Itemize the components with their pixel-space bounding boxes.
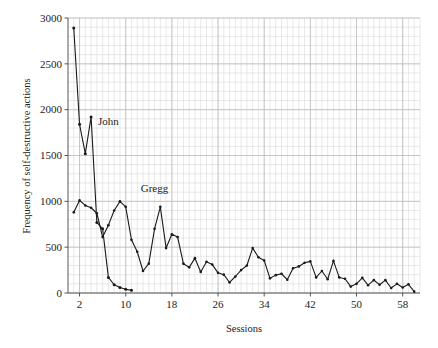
data-point [90,206,93,209]
grid-major-lines [68,18,420,293]
x-tick-label: 42 [305,298,316,310]
data-point [280,272,283,275]
data-point [211,263,214,266]
data-point [332,260,335,263]
data-point [101,236,104,239]
x-tick-label: 34 [259,298,271,310]
data-point [147,262,150,265]
data-point [401,286,404,289]
data-point [118,286,121,289]
data-point [165,247,168,250]
data-point [274,274,277,277]
data-point [309,260,312,263]
data-point [182,262,185,265]
data-point [124,206,127,209]
data-point [107,276,110,279]
data-point [355,283,358,286]
data-point [303,261,306,264]
data-point [373,279,376,282]
series-annotation-john: John [98,115,119,127]
data-point [251,247,254,250]
data-point [234,275,237,278]
data-point [194,257,197,260]
data-point [130,239,133,242]
series-annotation-gregg: Gregg [141,182,169,194]
data-point [257,256,260,259]
data-point [246,264,249,267]
data-point [378,283,381,286]
data-point [90,116,93,119]
x-tick-label: 2 [77,298,83,310]
data-point [326,278,329,281]
y-tick-label: 0 [57,287,63,299]
data-point [142,270,145,273]
data-point [188,266,191,269]
data-point [338,276,341,279]
data-point [269,277,272,280]
data-point [396,283,399,286]
data-point [78,123,81,126]
data-point [298,265,301,268]
data-point [78,199,81,202]
data-point [217,272,220,275]
x-tick-labels: 210182634425058 [77,298,409,310]
x-tick-label: 26 [213,298,225,310]
y-tick-label: 3000 [40,12,63,24]
data-point [153,228,156,231]
y-tick-label: 1500 [40,149,63,161]
y-tick-label: 500 [46,241,63,253]
data-point [315,276,318,279]
data-point [107,224,110,227]
y-tick-label: 1000 [40,195,63,207]
data-point [84,204,87,207]
y-tick-labels: 300025002000150010005000 [40,12,63,299]
data-point [390,287,393,290]
x-axis-title: Sessions [226,323,262,334]
data-point [407,283,410,286]
data-point [95,221,98,224]
x-tick-label: 18 [166,298,178,310]
data-point [72,211,75,214]
data-point [130,289,133,292]
data-point [113,209,116,212]
x-tick-label: 50 [351,298,363,310]
x-tick-label: 10 [120,298,132,310]
data-point [349,285,352,288]
data-point [199,271,202,274]
data-point [171,233,174,236]
data-point [159,206,162,209]
data-point [124,288,127,291]
data-point [113,283,116,286]
y-axis-title: Frequency of self-destructive actions [21,78,32,233]
data-point [292,267,295,270]
data-point [361,277,364,280]
data-point [72,27,75,30]
data-point [223,273,226,276]
data-point [413,290,416,293]
data-point [384,279,387,282]
data-point [240,269,243,272]
series-gregg [72,199,415,293]
data-point [84,152,87,155]
data-point [176,236,179,239]
data-point [96,212,99,215]
y-tick-label: 2500 [40,58,63,70]
line-chart: 300025002000150010005000 210182634425058… [0,0,438,348]
data-point [367,284,370,287]
data-point [321,270,324,273]
chart-container: 300025002000150010005000 210182634425058… [0,0,438,348]
axis-ticks [65,18,403,297]
data-point [286,278,289,281]
data-point [344,277,347,280]
x-tick-label: 58 [397,298,409,310]
data-point [136,250,139,253]
data-point [101,227,104,230]
data-point [228,281,231,284]
data-point [119,200,122,203]
data-point [205,261,208,264]
data-point [263,259,266,262]
y-tick-label: 2000 [40,103,63,115]
